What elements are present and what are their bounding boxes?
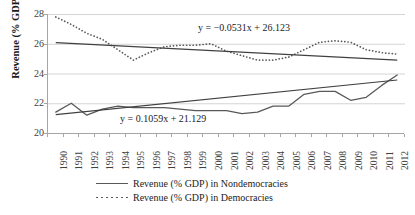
x-axis-tick-label: 2006 [307,136,317,170]
x-axis-tick-label: 1999 [198,136,208,170]
y-axis-tick-mark [44,14,47,15]
x-axis-tick-label: 2004 [276,136,286,170]
x-axis-tick-mark [47,134,48,137]
x-axis-tick-label: 1995 [136,136,146,170]
y-axis-tick-label: 22 [18,98,44,108]
chart-legend: Revenue (% GDP) in Nondemocracies Revenu… [0,176,415,210]
y-axis-tick-label: 20 [18,128,44,138]
y-axis-tick-label: 28 [18,9,44,19]
x-axis-tick-label: 1990 [59,136,69,170]
x-axis-tick-label: 2011 [385,136,395,170]
x-axis-tick-label: 2003 [261,136,271,170]
y-axis-tick-mark [44,74,47,75]
x-axis-tick-label: 1998 [183,136,193,170]
x-axis-tick-label: 2012 [400,136,410,170]
x-axis-tick-label: 1997 [167,136,177,170]
x-axis-tick-label: 1994 [121,136,131,170]
x-axis-tick-label: 2001 [230,136,240,170]
legend-swatch-dotted-line-icon [96,192,128,202]
revenue-gdp-line-chart: Revenue (% GDP) 2022242628 y = −0.0531x … [0,0,415,215]
y-axis-tick-label: 26 [18,39,44,49]
x-axis-tick-label: 2005 [292,136,302,170]
y-axis-tick-mark [44,44,47,45]
legend-label-nondemocracies: Revenue (% GDP) in Nondemocracies [133,178,288,189]
x-axis-tick-label: 2009 [354,136,364,170]
legend-swatch-solid-line-icon [96,178,128,188]
x-axis-tick-label: 2008 [338,136,348,170]
x-axis-tick-label: 2010 [369,136,379,170]
legend-item-democracies: Revenue (% GDP) in Democracies [96,190,273,204]
x-axis-tick-label: 2007 [323,136,333,170]
x-axis-tick-labels: 1990199119921993199419951996199719981999… [47,134,404,172]
legend-label-democracies: Revenue (% GDP) in Democracies [133,192,273,203]
legend-item-nondemocracies: Revenue (% GDP) in Nondemocracies [96,176,288,190]
y-axis-tick-mark [44,133,47,134]
nondemocracies-trendline-equation: y = 0.1059x + 21.129 [120,113,206,124]
x-axis-tick-label: 1996 [152,136,162,170]
x-axis-tick-label: 2002 [245,136,255,170]
x-axis-tick-label: 1992 [90,136,100,170]
x-axis-tick-label: 1993 [105,136,115,170]
y-axis-tick-label: 24 [18,69,44,79]
democracies-trendline-equation: y = −0.0531x + 26.123 [198,22,290,33]
trendline-democracies [56,43,397,60]
x-axis-tick-label: 2000 [214,136,224,170]
x-axis-tick-label: 1991 [74,136,84,170]
y-axis-tick-mark [44,103,47,104]
